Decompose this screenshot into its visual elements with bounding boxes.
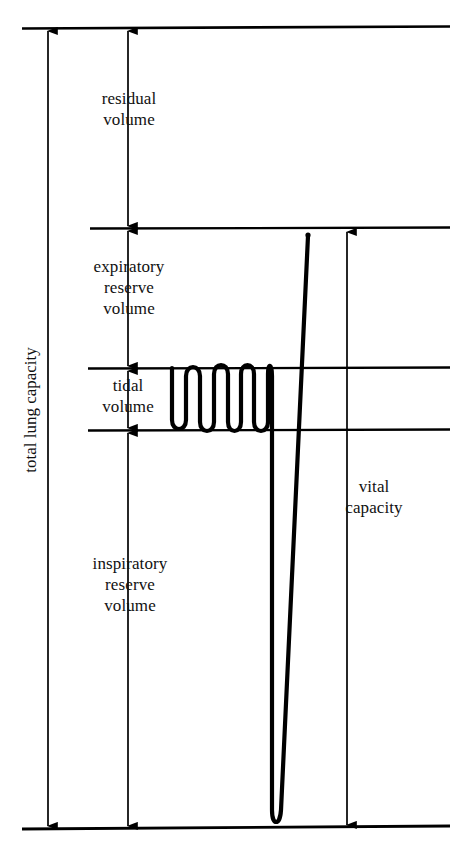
label-vital-capacity: vital capacity — [300, 476, 448, 518]
label-inspiratory-reserve-volume: inspiratory reserve volume — [62, 553, 198, 616]
label-tidal-volume: tidal volume — [66, 375, 190, 417]
label-total-lung-capacity: total lung capacity — [21, 315, 41, 505]
level-line-tidal-bottom — [88, 430, 450, 431]
label-residual-volume: residual volume — [68, 88, 190, 130]
level-line-residual-boundary — [90, 228, 450, 229]
label-expiratory-reserve-volume: expiratory reserve volume — [60, 256, 198, 319]
spirogram-trace-endpoint — [305, 232, 310, 237]
